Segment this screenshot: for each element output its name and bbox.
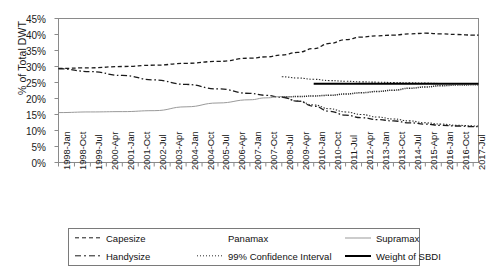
x-tick-group: [59, 163, 474, 167]
x-tick-label: 2001-Jan: [126, 131, 136, 170]
x-tick-label: 2010-Oct: [333, 131, 343, 169]
legend-label: Supramax: [376, 233, 419, 244]
legend-label: Capesize: [106, 233, 146, 244]
blank-line-icon: [197, 234, 223, 242]
x-tick-label: 2002-Jul: [158, 134, 168, 170]
x-tick-label: 2006-Apr: [237, 131, 247, 169]
bold-solid-line-icon: [345, 252, 371, 260]
legend: CapesizePanamaxSupramaxHandysize99% Conf…: [68, 228, 420, 266]
series-group: [59, 33, 479, 126]
legend-item[interactable]: Capesize: [75, 233, 197, 244]
x-tick-label: 2001-Oct: [142, 131, 152, 169]
series-line-supramax: [59, 97, 282, 113]
series-line-capesize: [59, 33, 479, 68]
x-tick-label: 2004-Oct: [206, 131, 216, 169]
x-tick-label: 2017-Jul: [477, 134, 487, 170]
x-tick-label: 2014-Jul: [413, 134, 423, 170]
y-tick-group: [55, 19, 59, 163]
dashed-line-icon: [75, 234, 101, 242]
x-tick-label: 2013-Oct: [397, 131, 407, 169]
x-tick-label: 2000-Apr: [110, 131, 120, 169]
legend-item[interactable]: Weight of SBDI: [345, 251, 441, 262]
dotted-line-icon: [197, 252, 223, 260]
series-line-99-confidence-interval: [282, 77, 479, 84]
x-tick-label: 2007-Oct: [269, 131, 279, 169]
x-tick-label: 2005-Jul: [221, 134, 231, 170]
legend-label: Panamax: [228, 233, 268, 244]
x-tick-label: 2013-Jan: [381, 131, 391, 170]
dash-dot-line-icon: [75, 252, 101, 260]
x-tick-label: 2007-Jan: [253, 131, 263, 170]
light-solid-line-icon: [345, 234, 371, 242]
x-tick-label: 2016-Jan: [445, 131, 455, 170]
legend-label: Weight of SBDI: [376, 251, 441, 262]
legend-label: 99% Confidence Interval: [228, 251, 332, 262]
x-tick-label: 2009-Apr: [301, 131, 311, 169]
series-line-99-confidence-interval-lower: [282, 97, 479, 126]
series-line-forecast-mean: [282, 85, 479, 97]
x-tick-label: 1998-Oct: [78, 131, 88, 169]
legend-item[interactable]: Supramax: [345, 233, 441, 244]
chart-container: % of Total DWT 45%40%35%30%25%20%15%10%5…: [0, 0, 488, 274]
x-tick-label: 1999-Jul: [94, 134, 104, 170]
x-tick-label: 2003-Apr: [174, 131, 184, 169]
x-tick-label: 1998-Jan: [62, 131, 72, 170]
x-tick-label: 2008-Jul: [285, 134, 295, 170]
legend-item[interactable]: Panamax: [197, 233, 345, 244]
x-tick-label: 2016-Oct: [461, 131, 471, 169]
x-tick-label: 2015-Apr: [429, 131, 439, 169]
x-tick-label: 2012-Apr: [365, 131, 375, 169]
legend-item[interactable]: Handysize: [75, 251, 197, 262]
x-tick-label: 2010-Jan: [317, 131, 327, 170]
legend-item[interactable]: 99% Confidence Interval: [197, 251, 345, 262]
x-tick-label: 2011-Jul: [349, 135, 359, 170]
legend-label: Handysize: [106, 251, 150, 262]
x-tick-label: 2004-Jan: [190, 131, 200, 170]
